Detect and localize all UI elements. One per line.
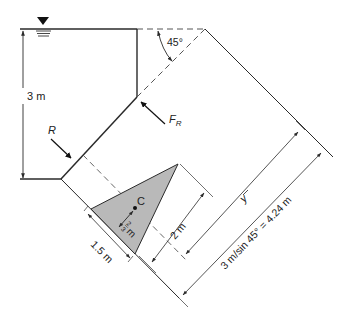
free-surface-icon [36, 17, 51, 36]
height-ext-top [180, 164, 213, 197]
slant-reference-line [205, 29, 333, 157]
ybar-ext-top [296, 121, 305, 130]
height-ext-bottom [139, 256, 156, 273]
resultant-force-label: FR [169, 113, 182, 128]
angle-label: 45° [167, 36, 183, 48]
ybar-label: y [236, 191, 250, 205]
reaction-arrow [51, 139, 71, 158]
base-width-label: 1.5 m [89, 238, 116, 265]
resultant-force-arrow [141, 102, 165, 124]
inclined-wall [61, 97, 137, 179]
depth-label: 3 m [27, 90, 45, 102]
ybar-dimension [186, 132, 298, 254]
slant-length-dimension [183, 153, 321, 295]
reaction-label: R [48, 124, 56, 136]
slant-length-label: 3 m/sin 45° = 4.24 m [218, 193, 294, 271]
base-ext-left [84, 206, 88, 211]
hydrostatic-diagram: 3 m 45° FR R C 2 3 m 1.5 m 2 m y [0, 0, 348, 335]
centroid-label: C [137, 195, 145, 207]
slant-ext-bottom [179, 298, 188, 307]
